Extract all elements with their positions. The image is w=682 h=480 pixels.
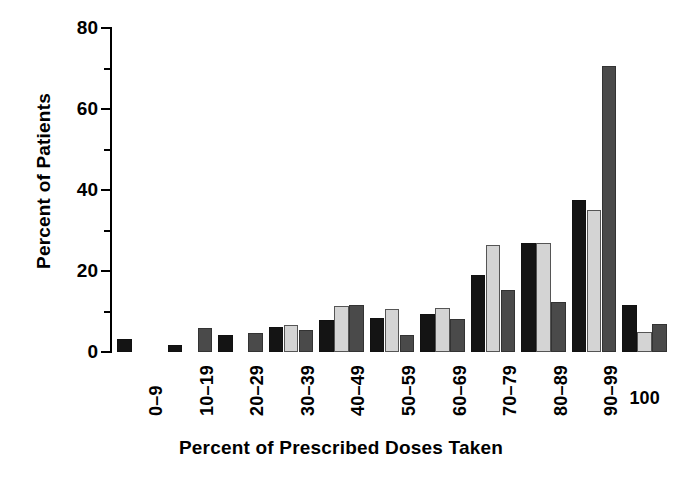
y-axis-tick-label: 80 — [36, 18, 98, 37]
bar — [334, 306, 349, 352]
y-axis-tick-label: 60 — [36, 99, 98, 118]
bar — [536, 243, 551, 352]
bar — [349, 305, 364, 352]
y-axis-tick-label: 20 — [36, 261, 98, 280]
y-axis-major-tick — [101, 270, 110, 272]
bar — [284, 325, 299, 352]
bar — [652, 324, 667, 352]
bar — [198, 328, 213, 352]
bar — [269, 327, 284, 352]
y-axis-major-tick — [101, 108, 110, 110]
bar — [385, 309, 400, 352]
y-axis-minor-tick — [104, 311, 110, 313]
bar — [400, 335, 415, 352]
bar-group — [370, 28, 415, 352]
y-axis-minor-tick — [104, 68, 110, 70]
bar — [450, 319, 465, 352]
x-axis-title: Percent of Prescribed Doses Taken — [0, 437, 682, 459]
bar — [637, 332, 652, 352]
bar-group — [218, 28, 263, 352]
x-axis-tick-label: 40–49 — [348, 365, 369, 416]
bar — [471, 275, 486, 352]
bar — [587, 210, 602, 352]
bar-group — [521, 28, 566, 352]
x-axis-tick-label: 20–29 — [247, 365, 268, 416]
bar-group — [168, 28, 213, 352]
bar — [299, 330, 314, 352]
y-axis-tick-labels: 020406080 — [26, 0, 98, 480]
bar-group — [471, 28, 516, 352]
bar — [501, 290, 516, 352]
y-axis-tick-label: 0 — [36, 342, 98, 361]
bar — [572, 200, 587, 352]
y-axis-major-tick — [101, 27, 110, 29]
bar — [420, 314, 435, 352]
bar — [521, 243, 536, 352]
x-axis-tick-label: 80–89 — [551, 365, 572, 416]
bar — [435, 308, 450, 352]
x-axis-tick-label: 30–39 — [298, 365, 319, 416]
bar — [602, 66, 617, 352]
bar — [168, 345, 183, 352]
y-axis-minor-tick — [104, 230, 110, 232]
x-axis-tick-labels: 0–910–1920–2930–3940–4950–5960–6970–7980… — [112, 352, 668, 422]
bar-chart: Percent of Patients 020406080 0–910–1920… — [0, 0, 682, 480]
bar — [486, 245, 501, 352]
y-axis-tick-label: 40 — [36, 180, 98, 199]
bar-group — [622, 28, 667, 352]
x-axis-tick-label: 90–99 — [601, 365, 622, 416]
y-axis-major-tick — [101, 351, 110, 353]
plot-area — [112, 28, 668, 352]
bar-group — [420, 28, 465, 352]
bar — [218, 335, 233, 352]
x-axis-tick-label: 70–79 — [500, 365, 521, 416]
x-axis-tick-label: 0–9 — [146, 385, 167, 416]
bar — [117, 339, 132, 352]
bar — [370, 318, 385, 352]
x-axis-tick-label: 60–69 — [450, 365, 471, 416]
y-axis-minor-tick — [104, 149, 110, 151]
x-axis-tick-label: 10–19 — [197, 365, 218, 416]
bar-group — [319, 28, 364, 352]
bar — [248, 333, 263, 352]
y-axis-major-tick — [101, 189, 110, 191]
bar — [319, 320, 334, 352]
bar-group — [572, 28, 617, 352]
bar — [551, 302, 566, 352]
bar-group — [269, 28, 314, 352]
bar — [622, 305, 637, 352]
x-axis-tick-label: 50–59 — [399, 365, 420, 416]
bar-group — [117, 28, 162, 352]
x-axis-tick-label: 100 — [629, 388, 660, 409]
